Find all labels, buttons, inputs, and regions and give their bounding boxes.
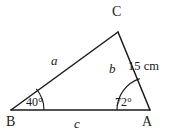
side-label-a: a	[51, 54, 58, 67]
side-length-label: 15 cm	[128, 60, 159, 73]
vertex-label-a: A	[142, 115, 152, 129]
vertex-label-c: C	[112, 5, 121, 19]
vertex-label-b: B	[6, 115, 15, 129]
angle-label-a: 72°	[115, 96, 132, 108]
angle-label-b: 40°	[26, 96, 43, 108]
side-label-c: c	[74, 117, 80, 130]
side-label-b: b	[109, 62, 116, 75]
